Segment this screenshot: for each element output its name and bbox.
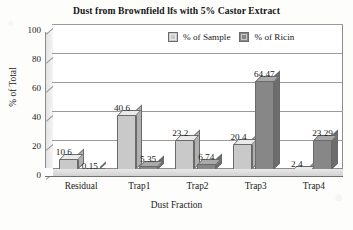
plot-area: 10.60.1540.65.3523.26.7420.464.472.423.2… (45, 24, 343, 176)
y-tick-label: 100 (15, 25, 41, 35)
legend-swatch-icon (168, 32, 178, 42)
bar-value-label: 2.4 (291, 159, 302, 169)
x-tick-label: Trap4 (286, 181, 342, 191)
plot-left-wall (45, 24, 53, 176)
gridline (52, 111, 343, 112)
bar-value-label: 23.29 (312, 128, 333, 138)
bar-value-label: 10.6 (56, 147, 72, 157)
x-tick-label: Trap2 (170, 181, 226, 191)
legend-label: % of Sample (183, 32, 230, 42)
bar-value-label: 6.74 (198, 152, 214, 162)
bar-value-label: 5.35 (140, 154, 156, 164)
legend-label: % of Ricin (254, 32, 294, 42)
y-tick-label: 0 (15, 170, 41, 180)
x-tick-label: Trap3 (228, 181, 284, 191)
bar-value-label: 23.2 (172, 128, 188, 138)
legend-entry: % of Ricin (239, 32, 294, 42)
y-tick-label: 40 (15, 112, 41, 122)
y-tick-label: 80 (15, 54, 41, 64)
gridline (52, 53, 343, 54)
x-tick-label: Residual (53, 181, 109, 191)
y-tick-label: 20 (15, 141, 41, 151)
chart-image: Dust from Brownfield lfs with 5% Castor … (0, 0, 353, 230)
gridline (52, 24, 343, 25)
bar-value-label: 64.47 (254, 69, 275, 79)
x-axis-label: Dust Fraction (0, 200, 353, 210)
bar-front-face (255, 81, 274, 174)
floor-corner (45, 168, 53, 176)
y-axis-label: % of Total (8, 47, 18, 127)
bar-trap1-sample (117, 115, 136, 174)
bar-side-face (274, 70, 280, 169)
bar-front-face (117, 115, 136, 174)
bar-value-label: 20.4 (230, 132, 246, 142)
legend-entry: % of Sample (168, 32, 230, 42)
gridline (52, 82, 343, 83)
bar-trap3-ricin (255, 81, 274, 174)
chart-title: Dust from Brownfield lfs with 5% Castor … (0, 5, 353, 16)
plot-floor (45, 169, 343, 177)
legend-swatch-icon (239, 32, 249, 42)
bar-value-label: 40.6 (114, 103, 130, 113)
x-tick-label: Trap1 (111, 181, 167, 191)
chart-legend: % of Sample% of Ricin (168, 29, 294, 45)
y-tick-label: 60 (15, 83, 41, 93)
